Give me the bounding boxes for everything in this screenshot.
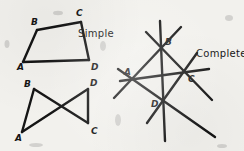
complete-quad-line-bc: [146, 32, 212, 100]
crossed-quad-label-d: D: [90, 78, 98, 88]
simple-quad-edge-da: [23, 60, 89, 62]
simple-quad-edge-bc: [37, 22, 81, 30]
crossed-quad-label-a: A: [14, 133, 22, 143]
complete-quad-line-ad: [118, 69, 215, 137]
complete-caption: Complete: [196, 48, 244, 59]
simple-quadrilateral-group: A B C D Simple: [16, 8, 114, 72]
quadrilaterals-figure: A B C D Simple A B D C: [0, 0, 244, 151]
crossed-quad-label-b: B: [24, 79, 31, 89]
complete-quad-label-d: D: [151, 99, 159, 109]
complete-quad-label-a: A: [123, 67, 131, 77]
simple-quad-edge-ab: [23, 30, 37, 62]
diagram-canvas: A B C D Simple A B D C: [0, 0, 244, 151]
crossed-quadrilateral-group: A B D C: [14, 78, 98, 143]
simple-quad-label-a: A: [16, 62, 24, 72]
complete-quadrilateral-group: A B C D Complete: [114, 21, 244, 141]
crossed-quad-label-c: C: [91, 126, 98, 136]
scan-speckles: [5, 11, 234, 148]
complete-quad-label-c: C: [188, 74, 195, 84]
complete-quad-line-cd: [147, 53, 197, 123]
simple-quad-label-c: C: [76, 8, 83, 18]
complete-quad-label-b: B: [165, 37, 172, 47]
simple-caption: Simple: [78, 28, 114, 39]
simple-quad-label-d: D: [91, 62, 99, 72]
simple-quad-label-b: B: [31, 17, 38, 27]
